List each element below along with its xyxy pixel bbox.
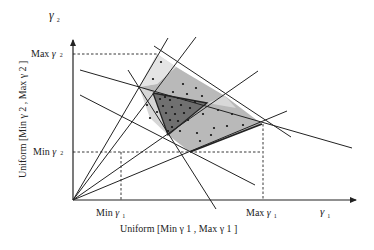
y-axis-label: γ2 [49,8,60,23]
min-gamma1-label: Min γ1 [96,207,125,219]
y-distribution-label: Uniform [Min γ 2 , Max γ 2 ] [17,61,28,178]
max-gamma1-label: Max γ1 [246,207,277,219]
min-gamma2-label: Min γ2 [33,146,63,157]
x-distribution-label: Uniform [Min γ 1 , Max γ 1 ] [120,223,237,234]
max-gamma2-label: Max γ2 [31,48,63,59]
uniform-distribution-diagram: γ2 γ1 Max γ2 Min γ2 Min γ1 Max γ1 Unifor… [0,0,374,250]
shaded-regions [139,54,262,152]
x-axis-label: γ1 [320,205,330,219]
